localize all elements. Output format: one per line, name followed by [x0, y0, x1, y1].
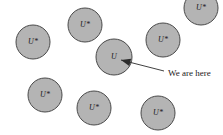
- annotation-group: We are here: [121, 59, 211, 78]
- universe-bottom-right-label: U*: [153, 108, 163, 117]
- universe-top-right-label: U*: [158, 35, 168, 44]
- diagram-canvas: U*U*U*UU*U*U*U* We are here: [0, 0, 223, 135]
- universe-center-here: U: [96, 39, 132, 75]
- universe-top-center: U*: [68, 8, 102, 42]
- universe-bottom-right: U*: [141, 96, 175, 130]
- universe-bottom-center: U*: [77, 91, 111, 125]
- multiverse-diagram: U*U*U*UU*U*U*U* We are here: [0, 0, 223, 135]
- universe-bottom-left: U*: [28, 78, 62, 112]
- universe-mid-right: U*: [184, 0, 218, 25]
- universe-top-center-label: U*: [80, 20, 90, 29]
- universe-top-left: U*: [16, 25, 50, 59]
- universe-top-left-label: U*: [28, 37, 38, 46]
- universe-top-right: U*: [146, 23, 180, 57]
- we-are-here-label: We are here: [168, 68, 211, 78]
- universe-bottom-center-label: U*: [89, 103, 99, 112]
- universe-bottom-left-label: U*: [40, 90, 50, 99]
- universe-mid-right-label: U*: [196, 3, 206, 12]
- universes-group: U*U*U*UU*U*U*U*: [16, 0, 218, 130]
